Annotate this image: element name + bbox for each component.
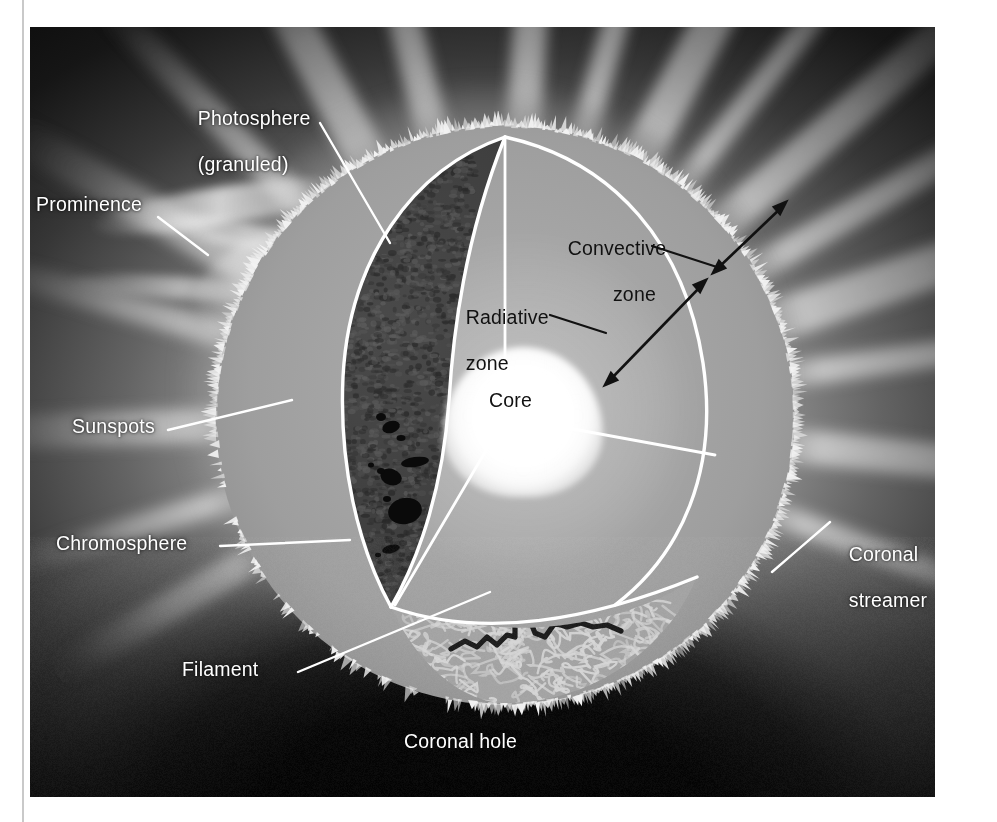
label-photosphere: Photosphere (granuled) [164, 84, 311, 199]
label-radiative-zone-line1: Radiative [466, 306, 549, 328]
page-margin-rule [22, 0, 24, 822]
label-sunspots: Sunspots [72, 415, 155, 438]
label-radiative-zone-line2: zone [466, 352, 509, 374]
label-photosphere-line1: Photosphere [198, 107, 311, 129]
label-photosphere-line2: (granuled) [198, 153, 289, 175]
label-radiative-zone: Radiative zone [432, 283, 552, 398]
label-core: Core [489, 389, 532, 412]
sun-diagram-plate: Photosphere (granuled) Prominence Sunspo… [30, 27, 935, 797]
figure-page: Photosphere (granuled) Prominence Sunspo… [0, 0, 997, 822]
label-convective-zone: Convective zone [534, 214, 656, 329]
label-convective-zone-line1: Convective [568, 237, 666, 259]
label-convective-zone-line2: zone [613, 283, 656, 305]
label-prominence: Prominence [36, 193, 142, 216]
